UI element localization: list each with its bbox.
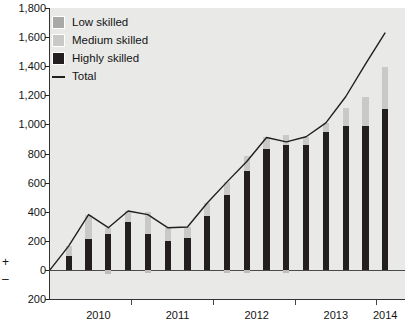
chart-root: 20002004006008001,0001,2001,4001,6001,80… [0, 0, 410, 332]
legend-item: Total [52, 68, 148, 84]
x-axis-tick-mark [295, 300, 296, 305]
x-axis-tick-label: 2011 [166, 309, 190, 321]
legend-item-label: Medium skilled [72, 34, 148, 46]
legend-item: Medium skilled [52, 32, 148, 48]
legend-color-swatch [52, 52, 65, 65]
x-axis-tick-label: 2010 [86, 309, 110, 321]
x-axis-tick-mark [213, 300, 214, 305]
x-axis-tick-mark [376, 300, 377, 305]
legend-item: Low skilled [52, 14, 148, 30]
x-axis-tick-mark [131, 300, 132, 305]
legend-color-swatch [52, 16, 65, 29]
legend-item-label: Total [72, 70, 96, 82]
legend-color-swatch [52, 34, 65, 47]
chart-legend: Low skilledMedium skilledHighly skilledT… [52, 14, 148, 86]
legend-item: Highly skilled [52, 50, 148, 66]
x-axis-tick-label: 2013 [324, 309, 348, 321]
legend-item-label: Low skilled [72, 16, 128, 28]
x-axis-tick-label: 2014 [373, 309, 397, 321]
x-axis-tick-label: 2012 [244, 309, 268, 321]
legend-line-swatch [52, 70, 65, 83]
legend-item-label: Highly skilled [72, 52, 139, 64]
